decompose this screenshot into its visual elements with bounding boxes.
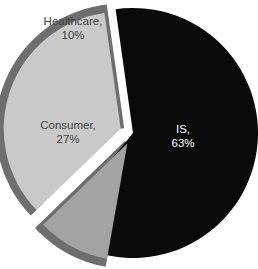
pie-label-value-consumer: 27%: [56, 133, 79, 145]
pie-label-value-is: 63%: [171, 137, 194, 149]
pie-chart-figure: IS,63%Consumer,27%Healthcare,10%: [0, 0, 258, 269]
pie-chart-canvas: IS,63%Consumer,27%Healthcare,10%: [0, 0, 258, 269]
pie-label-value-healthcare: 10%: [61, 29, 84, 41]
pie-label-name-is: IS,: [176, 123, 190, 135]
pie-label-name-consumer: Consumer,: [40, 119, 96, 131]
pie-label-name-healthcare: Healthcare,: [44, 15, 103, 27]
